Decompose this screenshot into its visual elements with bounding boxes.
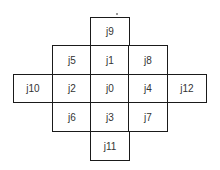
cell-label: j0 [106, 83, 114, 94]
cell-j6: j6 [52, 102, 92, 132]
cell-j5: j5 [52, 45, 92, 75]
cell-label: j5 [68, 55, 76, 66]
cell-label: j1 [106, 55, 114, 66]
cell-label: j8 [144, 55, 152, 66]
cell-label: j7 [144, 112, 152, 123]
cell-j8: j8 [128, 45, 168, 75]
cell-j12: j12 [167, 74, 207, 103]
cell-label: j9 [106, 26, 114, 37]
cell-j9: j9 [90, 17, 130, 46]
cell-j0: j0 [90, 74, 130, 103]
cell-label: j11 [104, 141, 117, 152]
cell-j4: j4 [128, 74, 168, 103]
cell-j3: j3 [90, 102, 130, 132]
stray-dot-mark [116, 13, 118, 15]
cell-label: j4 [144, 83, 152, 94]
cell-label: j6 [68, 112, 76, 123]
cell-j2: j2 [52, 74, 92, 103]
neighborhood-diagram: j9 j5 j1 j8 j10 j2 j0 j4 j12 j6 j3 j7 j1… [0, 0, 220, 170]
cell-label: j12 [180, 83, 193, 94]
cell-j11: j11 [90, 131, 130, 161]
cell-j10: j10 [13, 74, 53, 103]
cell-j1: j1 [90, 45, 130, 75]
cell-j7: j7 [128, 102, 168, 132]
cell-label: j10 [26, 83, 39, 94]
cell-label: j3 [106, 112, 114, 123]
cell-label: j2 [68, 83, 76, 94]
